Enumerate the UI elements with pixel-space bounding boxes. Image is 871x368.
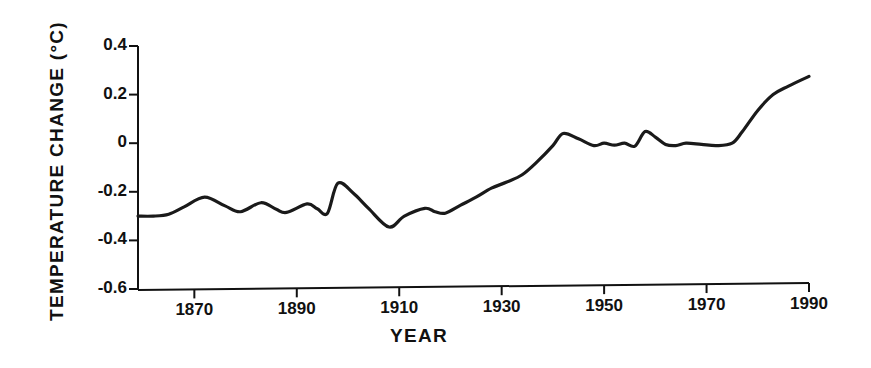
tick-marks	[129, 46, 809, 298]
x-axis-line	[138, 283, 809, 290]
plot-area	[0, 0, 871, 368]
data-series-group	[138, 76, 809, 227]
axis-lines	[138, 46, 809, 290]
data-line	[138, 76, 809, 227]
chart-figure: TEMPERATURE CHANGE (°C) YEAR 0.40.20-0.2…	[0, 0, 871, 368]
